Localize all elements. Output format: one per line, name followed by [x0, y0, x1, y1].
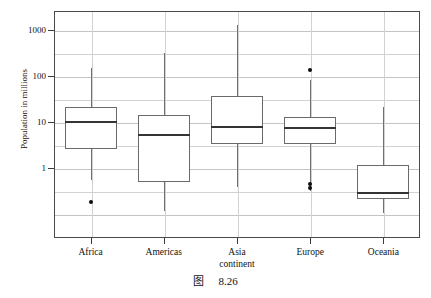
x-axis-tick-mark: [237, 238, 238, 244]
boxplot-figure: Population in millions 1000100101AfricaA…: [0, 0, 431, 298]
iqr-box: [211, 96, 263, 144]
x-axis-tick-mark: [164, 238, 165, 244]
y-axis-tick-label: 1000: [28, 26, 46, 35]
iqr-box: [284, 117, 336, 144]
y-axis-tick-mark: [48, 168, 54, 169]
median-line: [284, 127, 336, 129]
x-axis-tick-mark: [91, 238, 92, 244]
x-axis-tick-label-oceania: Oceania: [338, 247, 428, 258]
caption-number: 8.26: [218, 275, 237, 287]
median-line: [65, 121, 117, 123]
figure-caption: 图8.26: [0, 275, 431, 288]
gridline-horizontal: [55, 215, 419, 216]
x-axis-tick-mark: [383, 238, 384, 244]
gridline-vertical: [384, 12, 385, 237]
x-axis-tick-mark: [310, 238, 311, 244]
iqr-box: [138, 115, 190, 182]
y-axis-title: Population in millions: [19, 39, 29, 179]
median-line: [138, 134, 190, 136]
x-axis-title: continent: [192, 259, 282, 270]
y-axis-tick-mark: [48, 122, 54, 123]
y-axis-tick-label: 100: [33, 72, 47, 81]
median-line: [211, 126, 263, 128]
y-axis-tick-mark: [48, 30, 54, 31]
y-axis-tick-mark: [48, 76, 54, 77]
outlier-point: [308, 182, 312, 186]
median-line: [357, 192, 409, 194]
y-axis-tick-label: 1: [42, 164, 47, 173]
y-axis-tick-label: 10: [37, 118, 46, 127]
caption-label: 图: [193, 275, 204, 287]
iqr-box: [65, 107, 117, 149]
outlier-point: [89, 200, 93, 204]
